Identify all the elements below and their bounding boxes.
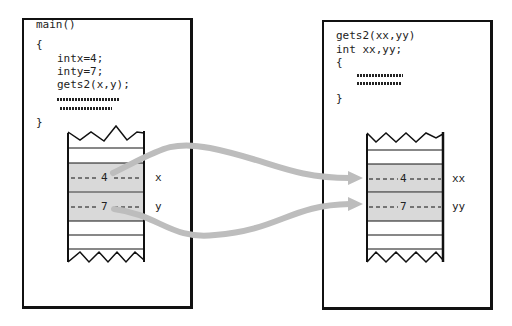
caller-value-x: 4 (101, 171, 108, 184)
caller-label-x: x (155, 171, 162, 184)
callee-label-xx: xx (452, 172, 465, 185)
caller-stack (68, 126, 144, 262)
pass-by-value-arrows (113, 145, 350, 235)
caller-label-y: y (155, 200, 162, 213)
callee-stack (367, 132, 443, 262)
callee-value-xx: 4 (400, 172, 407, 185)
callee-label-yy: yy (452, 200, 465, 213)
callee-value-yy: 7 (400, 200, 407, 213)
stack-diagram (0, 0, 512, 326)
caller-value-y: 7 (101, 200, 108, 213)
